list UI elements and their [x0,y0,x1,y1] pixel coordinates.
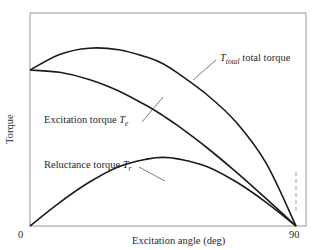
label-excitation-torque: Excitation torque Te [44,115,128,126]
x-axis-label: Excitation angle (deg) [132,236,225,247]
excitation-subscript: e [125,119,128,128]
label-total-torque: Ttotal total torque [220,53,290,64]
x-tick-0: 0 [18,230,23,241]
leader-excitation [142,97,163,122]
y-axis-label: Torque [4,114,15,144]
excitation-text: Excitation torque [44,114,119,125]
leader-reluctance [139,167,165,181]
total-symbol: T [220,52,226,63]
reluctance-text: Reluctance torque [44,159,123,170]
label-reluctance-torque: Reluctance torque Tr [44,160,131,171]
total-text: total torque [240,52,291,63]
x-tick-90: 90 [289,230,300,241]
total-subscript: total [226,57,240,66]
reluctance-symbol: T [123,159,129,170]
leader-total [193,60,216,80]
